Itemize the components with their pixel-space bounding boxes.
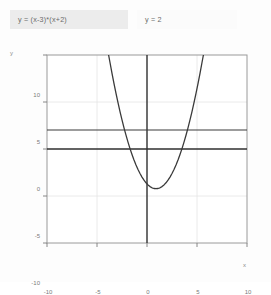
y-tick-label-minus5: -5 (22, 233, 40, 239)
x-tick-label-10: 10 (240, 289, 256, 295)
graph-canvas[interactable] (0, 40, 271, 282)
equation-bar: y = (x-3)*(x+2) y = 2 (0, 10, 271, 34)
x-tick-label-5: 5 (190, 289, 206, 295)
graph-panel[interactable]: 10 5 0 -5 -10 -10 -5 0 5 10 (0, 40, 271, 282)
equation-input-2[interactable]: y = 2 (137, 10, 237, 29)
x-tick-label-0: 0 (140, 289, 156, 295)
x-tick-label-minus10: -10 (40, 289, 56, 295)
equation-input-1[interactable]: y = (x-3)*(x+2) (10, 10, 128, 29)
x-axis-title: x (243, 262, 246, 268)
y-tick-label-minus10: -10 (22, 280, 40, 286)
y-tick-label-0: 0 (22, 186, 40, 192)
y-tick-label-10: 10 (22, 92, 40, 98)
x-tick-label-minus5: -5 (90, 289, 106, 295)
y-tick-label-5: 5 (22, 139, 40, 145)
y-axis-title: y (10, 50, 13, 56)
